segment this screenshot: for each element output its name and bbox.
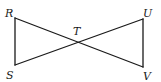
label-s: S xyxy=(6,69,14,82)
label-u: U xyxy=(143,7,153,20)
geometry-diagram: R S T U V xyxy=(0,0,161,82)
label-v: V xyxy=(143,70,152,82)
label-r: R xyxy=(4,7,13,20)
label-t: T xyxy=(73,25,82,38)
